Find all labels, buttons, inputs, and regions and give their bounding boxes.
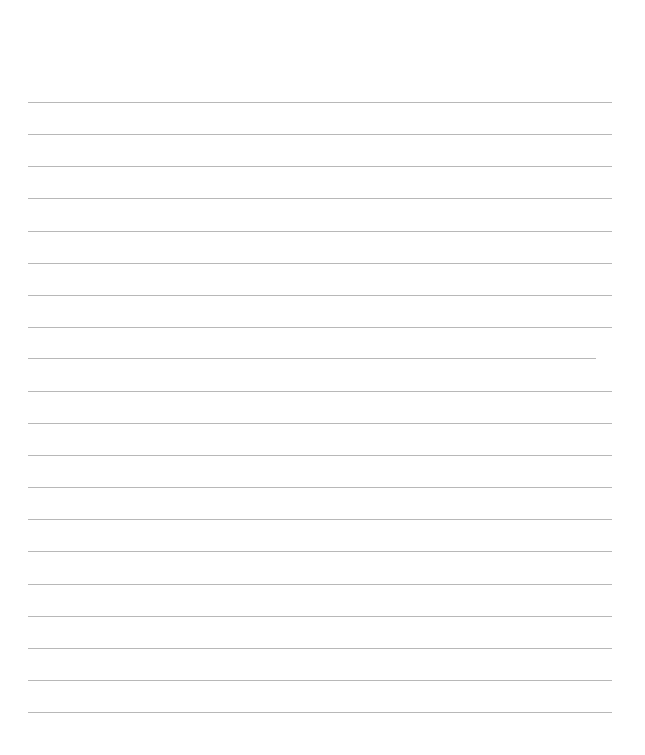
ruled-line xyxy=(28,712,612,713)
ruled-line xyxy=(28,423,612,424)
ruled-line xyxy=(28,616,612,617)
ruled-line xyxy=(28,102,612,103)
ruled-line xyxy=(28,487,612,488)
ruled-line xyxy=(28,551,612,552)
ruled-line xyxy=(28,455,612,456)
ruled-line xyxy=(28,358,596,359)
ruled-line xyxy=(28,166,612,167)
ruled-line xyxy=(28,391,612,392)
ruled-line xyxy=(28,134,612,135)
ruled-line xyxy=(28,680,612,681)
ruled-line xyxy=(28,648,612,649)
lined-paper-page xyxy=(0,0,645,755)
ruled-line xyxy=(28,327,612,328)
ruled-line xyxy=(28,198,612,199)
ruled-line xyxy=(28,519,612,520)
ruled-line xyxy=(28,584,612,585)
ruled-line xyxy=(28,263,612,264)
ruled-line xyxy=(28,231,612,232)
ruled-line xyxy=(28,295,612,296)
